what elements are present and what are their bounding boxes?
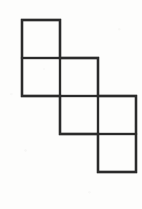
square-r3c2 bbox=[98, 96, 136, 134]
square-r3c1 bbox=[60, 96, 98, 134]
square-r1c0 bbox=[22, 20, 60, 58]
square-r2c0 bbox=[22, 58, 60, 96]
square-r4c2 bbox=[98, 134, 136, 172]
figure-canvas bbox=[0, 0, 142, 209]
square-r2c1 bbox=[60, 58, 98, 96]
polyomino-diagram bbox=[0, 0, 142, 209]
